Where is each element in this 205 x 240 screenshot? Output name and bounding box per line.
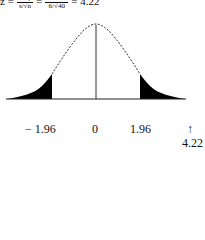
label-test-stat: 4.22 xyxy=(182,136,203,151)
label-center: 0 xyxy=(92,122,98,137)
right-tail-region xyxy=(140,74,186,99)
left-tail-region xyxy=(6,74,52,99)
arrow-up-icon: ↑ xyxy=(187,122,193,137)
label-left-critical: − 1.96 xyxy=(25,122,56,137)
label-right-critical: 1.96 xyxy=(130,122,151,137)
